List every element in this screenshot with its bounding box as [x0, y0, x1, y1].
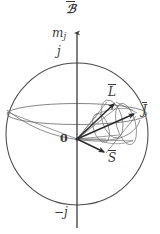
origin-point: [75, 137, 78, 140]
vector-model-figure: ℬ mj j −j 0 L J S: [0, 0, 160, 234]
vector-L-label: L: [108, 85, 116, 98]
j-negative-label: −j: [54, 206, 68, 218]
figure-canvas: [0, 0, 160, 234]
vector-J: [77, 114, 134, 139]
vector-J-label: J: [142, 103, 147, 116]
vector-S-label: S: [108, 151, 116, 164]
j-positive-label: j: [57, 45, 61, 57]
mj-axis-label: mj: [52, 27, 66, 41]
magnetic-field-label: ℬ: [66, 2, 75, 15]
s-to-j-construction-line: [106, 116, 136, 153]
origin-label: 0: [60, 133, 68, 144]
